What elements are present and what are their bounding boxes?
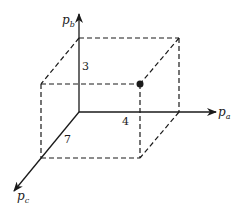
diagram-canvas: 3 4 7 pb pa pc: [0, 0, 238, 213]
dimension-label-pc: 7: [64, 133, 71, 146]
dimension-label-pb: 3: [82, 60, 89, 73]
axis-label-pa: pa: [218, 105, 231, 121]
dimension-label-pa: 4: [122, 115, 129, 128]
coordinate-box-diagram: 3 4 7 pb pa pc: [0, 0, 238, 213]
axis-pc: [14, 112, 79, 191]
axis-label-pc: pc: [17, 189, 30, 205]
axis-label-pb: pb: [62, 13, 75, 29]
point-marker: [137, 81, 144, 88]
box-edges: [41, 38, 179, 158]
